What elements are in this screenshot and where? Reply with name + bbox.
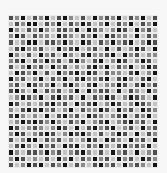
tile-mosaic-grid bbox=[8, 15, 158, 168]
mosaic-tile bbox=[152, 162, 158, 168]
